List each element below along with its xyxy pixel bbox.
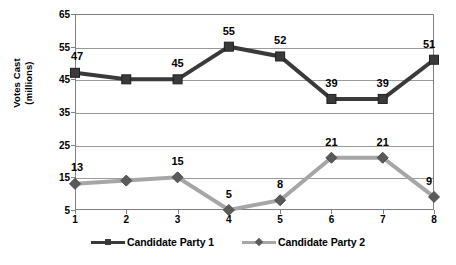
legend-label-series-2: Candidate Party 2 [278, 236, 365, 248]
square-marker-icon [105, 239, 111, 245]
y-axis-title: Votes Cast (millions) [11, 13, 41, 153]
x-axis-tick-mark [75, 210, 76, 214]
x-axis-tick-label: 7 [371, 214, 395, 225]
legend-swatch-series-1 [91, 237, 125, 248]
y-axis-tick-mark [71, 79, 75, 80]
legend-item-candidate-party-1[interactable]: Candidate Party 1 [91, 236, 214, 248]
y-axis-title-line2: (millions) [23, 61, 34, 104]
data-point-label: 51 [423, 38, 435, 50]
data-point-label: 21 [377, 136, 389, 148]
x-axis-tick-label: 3 [166, 214, 190, 225]
y-axis-title-line1: Votes Cast [11, 58, 22, 107]
data-point-label: 9 [426, 175, 432, 187]
x-axis-tick-label: 8 [422, 214, 446, 225]
legend-label-series-1: Candidate Party 1 [127, 236, 214, 248]
y-axis-tick-mark [71, 112, 75, 113]
x-axis-tick-mark [280, 210, 281, 214]
y-axis-tick-label: 65 [40, 9, 70, 20]
x-axis-tick-mark [126, 210, 127, 214]
chart-legend: Candidate Party 1 Candidate Party 2 [0, 236, 456, 248]
x-axis-tick-label: 1 [63, 214, 87, 225]
gridline [76, 113, 433, 114]
x-axis-tick-mark [331, 210, 332, 214]
x-axis-tick-label: 6 [319, 214, 343, 225]
y-axis-tick-mark [71, 145, 75, 146]
data-point-label: 47 [71, 50, 83, 62]
legend-item-candidate-party-2[interactable]: Candidate Party 2 [242, 236, 365, 248]
data-point-label: 39 [325, 77, 337, 89]
x-axis-tick-mark [383, 210, 384, 214]
gridline [76, 178, 433, 179]
data-point-label: 39 [377, 77, 389, 89]
y-axis-tick-label: 25 [40, 139, 70, 150]
y-axis-tick-mark [71, 14, 75, 15]
data-point-label: 15 [171, 155, 183, 167]
data-point-label: 45 [171, 57, 183, 69]
data-point-label: 13 [71, 161, 83, 173]
plot-area [75, 14, 434, 210]
diamond-marker-icon [255, 237, 263, 245]
data-point-label: 5 [226, 188, 232, 200]
data-point-label: 55 [223, 25, 235, 37]
y-axis-tick-label: 15 [40, 172, 70, 183]
y-axis-tick-label: 35 [40, 107, 70, 118]
x-axis-tick-mark [434, 210, 435, 214]
x-axis-tick-mark [229, 210, 230, 214]
x-axis-tick-label: 4 [217, 214, 241, 225]
gridline [76, 48, 433, 49]
chart-container: Votes Cast (millions) 6555453525155 1234… [0, 0, 456, 265]
y-axis-tick-mark [71, 177, 75, 178]
y-axis-tick-mark [71, 47, 75, 48]
data-point-label: 52 [274, 34, 286, 46]
x-axis-tick-label: 2 [114, 214, 138, 225]
data-point-label: 21 [325, 136, 337, 148]
y-axis-tick-label: 45 [40, 74, 70, 85]
legend-swatch-series-2 [242, 237, 276, 248]
y-axis-tick-label: 55 [40, 41, 70, 52]
x-axis-tick-label: 5 [268, 214, 292, 225]
x-axis-tick-mark [178, 210, 179, 214]
data-point-label: 8 [277, 178, 283, 190]
